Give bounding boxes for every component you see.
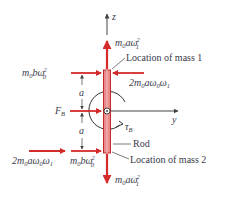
origin-x-axis-out-icon bbox=[104, 108, 110, 114]
dimension-upper-a: a bbox=[79, 75, 84, 109]
top-vertical-force-label: m0aω21 bbox=[115, 36, 141, 50]
bottom-left-far-force-label: 2m0aω0ω1 bbox=[12, 155, 53, 167]
callout-mass2: Location of mass 2 bbox=[130, 154, 206, 165]
free-body-diagram: z y a a m0aω21 Location of mass bbox=[0, 0, 229, 200]
dimension-lower-a: a bbox=[79, 113, 84, 149]
y-axis: y bbox=[110, 111, 178, 125]
y-axis-label: y bbox=[171, 114, 177, 125]
z-axis-label: z bbox=[111, 11, 116, 22]
z-axis: z bbox=[107, 11, 116, 35]
top-right-force-label: 2m0aω0ω1 bbox=[129, 77, 170, 89]
callout-rod: Rod bbox=[133, 138, 150, 149]
bottom-left-near-force-label: m0bω20 bbox=[70, 154, 96, 168]
bottom-vertical-force-label: m0aω21 bbox=[115, 173, 141, 187]
F-B-label: FB bbox=[54, 105, 65, 117]
torque-label: τB bbox=[125, 121, 133, 133]
svg-text:a: a bbox=[79, 87, 84, 98]
svg-text:a: a bbox=[79, 125, 84, 136]
top-left-force-label: m0bω20 bbox=[22, 66, 48, 80]
callout-mass1: Location of mass 1 bbox=[126, 52, 202, 63]
